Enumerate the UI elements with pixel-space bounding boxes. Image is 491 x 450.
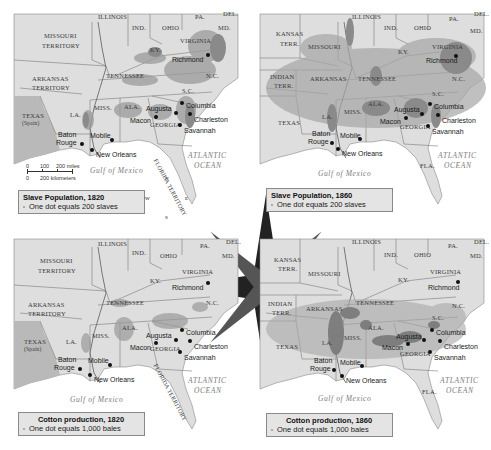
city-marker-baton-rouge <box>78 367 82 371</box>
city-marker-columbia <box>428 102 432 106</box>
city-marker-augusta <box>422 338 426 342</box>
terr-label-spain: (Spain) <box>22 121 40 127</box>
city-marker-macon <box>154 341 158 345</box>
compass-n: N <box>165 176 169 181</box>
scale-tick <box>27 169 28 174</box>
state-label-ohio: OHIO <box>414 25 431 32</box>
state-label-indiana: IND. <box>132 250 146 257</box>
compass-w: W <box>145 196 150 201</box>
scale-tick <box>42 169 43 172</box>
water-label-atlantic: ATLANTIC <box>438 152 477 160</box>
terr-label-indian-2: TERR. <box>274 83 293 90</box>
state-label-tennessee: TENNESSEE <box>358 76 396 83</box>
state-label-la: LA. <box>322 114 333 121</box>
water-label-ocean: OCEAN <box>194 162 222 170</box>
terr-label-kansas-2: TERR. <box>278 266 297 273</box>
state-label-nc: N.C. <box>206 73 219 80</box>
scale-tick <box>72 169 73 174</box>
city-label-charleston: Charleston <box>194 116 228 123</box>
map-legend: Cotton production, 1820 One dot equals 1… <box>18 412 145 436</box>
state-label-indiana: IND. <box>384 25 398 32</box>
state-label-md: MD. <box>470 253 483 260</box>
city-marker-macon <box>404 116 408 120</box>
state-label-texas: TEXAS <box>276 344 298 351</box>
state-label-virginia: VIRGINIA <box>182 269 213 276</box>
terr-label-indian-1: INDIAN <box>270 74 294 81</box>
terr-label-missouri-2: TERRITORY <box>38 268 76 275</box>
city-label-mobile: Mobile <box>340 359 361 366</box>
city-label-new-orleans: New Orleans <box>96 151 136 158</box>
city-label-new-orleans: New Orleans <box>346 377 386 384</box>
terr-label-arkansas-2: TERRITORY <box>28 311 66 318</box>
map-panel-cotton-1820: ILLINOIS IND. OHIO PA. DEL. MD. MISSOURI… <box>10 233 242 443</box>
map-panel-cotton-1860: ILLINOIS IND. OHIO PA. DEL. MD. KANSAS T… <box>256 233 488 443</box>
city-label-rouge: Rouge <box>54 364 75 371</box>
state-label-virginia: VIRGINIA <box>180 38 211 45</box>
city-marker-baton-rouge <box>332 368 336 372</box>
legend-title: Cotton production, 1820 <box>23 415 139 424</box>
city-marker-new-orleans <box>340 374 344 378</box>
dot-swatch-icon <box>23 428 25 430</box>
state-label-missouri: MISSOURI <box>308 44 341 51</box>
legend-key: One dot equals 200 slaves <box>29 202 118 211</box>
city-marker-columbia <box>180 328 184 332</box>
state-label-illinois: ILLINOIS <box>98 241 127 248</box>
city-label-savannah: Savannah <box>184 354 216 361</box>
water-label-gulf: Gulf of Mexico <box>318 395 371 403</box>
legend-key-row: One dot equals 200 slaves <box>271 200 387 209</box>
state-label-illinois: ILLINOIS <box>352 14 381 21</box>
city-marker-baton-rouge <box>330 141 334 145</box>
city-label-macon: Macon <box>130 117 151 124</box>
city-label-charleston: Charleston <box>194 343 228 350</box>
city-label-savannah: Savannah <box>432 128 464 135</box>
state-label-del: DEL. <box>223 11 238 18</box>
city-label-baton: Baton <box>58 131 76 138</box>
state-label-ky: KY. <box>398 49 409 56</box>
city-label-macon: Macon <box>380 118 401 125</box>
terr-label-texas: TEXAS <box>24 339 46 346</box>
city-label-baton: Baton <box>58 356 76 363</box>
compass-s: S <box>165 215 168 220</box>
city-marker-charleston <box>436 113 440 117</box>
state-label-del: DEL. <box>474 11 489 18</box>
state-label-indiana: IND. <box>132 25 146 32</box>
city-label-richmond: Richmond <box>428 284 460 291</box>
legend-title: Cotton production, 1860 <box>271 416 387 425</box>
state-label-del: DEL. <box>226 239 241 246</box>
dot-swatch-icon <box>271 429 273 431</box>
city-label-columbia: Columbia <box>186 102 216 109</box>
legend-key-row: One dot equals 200 slaves <box>23 202 139 211</box>
state-label-la: LA. <box>322 340 333 347</box>
city-label-macon: Macon <box>130 344 151 351</box>
legend-key: One dot equals 200 slaves <box>277 200 366 209</box>
state-label-miss: MISS. <box>344 109 362 116</box>
state-label-arkansas: ARKANSAS <box>306 306 343 313</box>
city-marker-augusta <box>174 111 178 115</box>
terr-label-arkansas-1: ARKANSAS <box>32 76 69 83</box>
water-label-ocean: OCEAN <box>446 387 474 395</box>
state-label-pa: PA. <box>449 16 459 23</box>
state-label-georgia: GEORGIA <box>400 351 431 358</box>
city-marker-macon <box>154 115 158 119</box>
city-marker-baton-rouge <box>80 142 84 146</box>
city-label-mobile: Mobile <box>340 132 361 139</box>
city-label-mobile: Mobile <box>90 132 111 139</box>
legend-title: Slave Population, 1820 <box>23 193 139 202</box>
terr-label-arkansas-1: ARKANSAS <box>28 302 65 309</box>
state-label-ala: ALA. <box>368 325 384 332</box>
state-label-md: MD. <box>218 25 231 32</box>
city-label-rouge: Rouge <box>310 365 331 372</box>
city-label-rouge: Rouge <box>308 138 329 145</box>
city-marker-new-orleans <box>336 147 340 151</box>
state-label-arkansas: ARKANSAS <box>310 76 347 83</box>
state-label-pa: PA. <box>195 14 205 21</box>
legend-key: One dot equals 1,000 bales <box>277 425 369 434</box>
dot-swatch-icon <box>23 206 25 208</box>
compass-e: E <box>185 196 188 201</box>
city-marker-augusta <box>174 338 178 342</box>
city-marker-new-orleans <box>88 373 92 377</box>
legend-title: Slave Population, 1860 <box>271 191 387 200</box>
state-label-nc: N.C. <box>452 303 465 310</box>
city-marker-savannah <box>178 350 182 354</box>
scale-tick <box>57 169 58 172</box>
